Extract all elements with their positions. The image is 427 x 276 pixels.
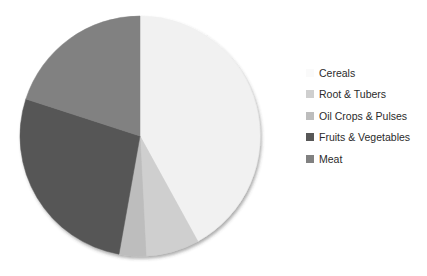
legend-item-cereals[interactable]: Cereals <box>306 62 424 84</box>
legend-item-oil-crops-and-pulses[interactable]: Oil Crops & Pulses <box>306 105 424 127</box>
pie-chart <box>0 0 290 276</box>
legend-swatch-meat <box>306 155 314 163</box>
legend-label-fruits-and-vegetables: Fruits & Vegetables <box>319 132 410 143</box>
legend-swatch-cereals <box>306 69 314 77</box>
legend-label-oil-crops-and-pulses: Oil Crops & Pulses <box>319 111 407 122</box>
legend-swatch-root-and-tubers <box>306 90 314 98</box>
legend-swatch-fruits-and-vegetables <box>306 133 314 141</box>
legend-swatch-oil-crops-and-pulses <box>306 112 314 120</box>
legend-label-meat: Meat <box>319 154 342 165</box>
legend-item-meat[interactable]: Meat <box>306 148 424 170</box>
pie-slice-group <box>20 16 260 256</box>
legend-item-root-and-tubers[interactable]: Root & Tubers <box>306 84 424 106</box>
legend-label-root-and-tubers: Root & Tubers <box>319 89 386 100</box>
legend-label-cereals: Cereals <box>319 68 355 79</box>
chart-legend: Cereals Root & Tubers Oil Crops & Pulses… <box>306 62 424 170</box>
pie-chart-svg <box>0 0 290 276</box>
chart-canvas: to the ability of able to the eco in the… <box>0 0 427 276</box>
legend-item-fruits-and-vegetables[interactable]: Fruits & Vegetables <box>306 127 424 149</box>
